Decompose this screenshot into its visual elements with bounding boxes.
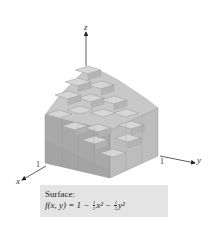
z-axis-label: z — [84, 22, 88, 32]
y-axis — [160, 156, 195, 163]
minus-sign: − — [105, 200, 111, 210]
x-tick-1: 1 — [36, 160, 40, 169]
term-x-squared: x² — [96, 200, 103, 210]
x-axis-label: x — [16, 176, 20, 186]
term-y-squared: y² — [118, 200, 125, 210]
fraction-half-2: 12 — [114, 200, 117, 211]
figure-caption: Surface: f(x, y) = 1 − 12x² − 12y² — [40, 185, 168, 217]
fraction-half-1: 12 — [93, 200, 96, 211]
caption-title: Surface: — [45, 189, 163, 200]
x-axis — [22, 166, 46, 180]
function-lhs: f(x, y) = 1 − — [45, 200, 89, 210]
y-tick-1: 1 — [160, 157, 164, 166]
caption-function: f(x, y) = 1 − 12x² − 12y² — [45, 200, 163, 211]
y-axis-label: y — [197, 155, 201, 165]
